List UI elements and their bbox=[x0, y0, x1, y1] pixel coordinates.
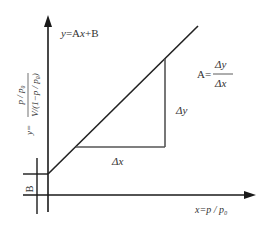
y-axis-label: y= p / p₀ V/(1−p / p₀) bbox=[15, 73, 40, 136]
regression-line bbox=[48, 26, 198, 174]
delta-y-label: Δy bbox=[175, 104, 187, 116]
equation-label: y=Ax+B bbox=[60, 27, 98, 39]
svg-text:y=: y= bbox=[24, 125, 34, 136]
bet-plot-diagram: y=Ax+B A= Δy Δx Δy Δx B y= p / p₀ V/(1−p… bbox=[0, 0, 274, 231]
intercept-label: B bbox=[24, 185, 35, 192]
y-axis-arrow-icon bbox=[44, 15, 52, 27]
svg-text:V/(1−p / p₀): V/(1−p / p₀) bbox=[30, 73, 40, 117]
x-axis-label: x=p / p₀ bbox=[194, 204, 228, 215]
svg-text:Δy: Δy bbox=[214, 58, 226, 70]
svg-text:A=: A= bbox=[197, 68, 211, 80]
slope-formula: A= Δy Δx bbox=[197, 58, 233, 89]
x-axis-arrow-icon bbox=[244, 191, 256, 199]
delta-x-label: Δx bbox=[111, 155, 123, 167]
svg-text:Δx: Δx bbox=[214, 77, 226, 89]
svg-text:p / p₀: p / p₀ bbox=[15, 85, 25, 105]
